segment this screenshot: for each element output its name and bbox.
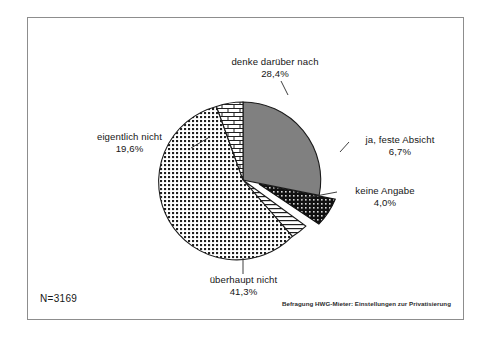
slice-label-text: keine Angabe [355, 185, 414, 196]
pie-slice-denke-darueber-nach[interactable] [243, 102, 321, 195]
slice-label-denke-darueber-nach: denke darüber nach 28,4% [210, 56, 340, 80]
slice-value-text: 6,7% [352, 146, 448, 158]
slice-value-text: 19,6% [72, 143, 187, 155]
slice-label-text: eigentlich nicht [97, 131, 162, 142]
slice-label-ja-feste-absicht: ja, feste Absicht 6,7% [352, 134, 448, 158]
slice-value-text: 41,3% [186, 286, 301, 298]
slice-label-keine-angabe: keine Angabe 4,0% [339, 185, 431, 209]
slice-label-text: ja, feste Absicht [366, 134, 435, 145]
figure-canvas: denke darüber nach 28,4% eigentlich nich… [0, 0, 491, 338]
slice-value-text: 4,0% [339, 197, 431, 209]
sample-size-label: N=3169 [40, 293, 77, 304]
slice-value-text: 28,4% [210, 68, 340, 80]
slice-label-eigentlich-nicht: eigentlich nicht 19,6% [72, 131, 187, 155]
slice-label-ueberhaupt-nicht: überhaupt nicht 41,3% [186, 274, 301, 298]
source-note: Befragung HWG-Mieter: Einstellungen zur … [282, 300, 451, 307]
leader-denke-darueber-nach [281, 81, 288, 95]
leader-ja-feste-absicht [340, 142, 349, 152]
slice-label-text: denke darüber nach [231, 56, 318, 67]
slice-label-text: überhaupt nicht [210, 274, 278, 285]
